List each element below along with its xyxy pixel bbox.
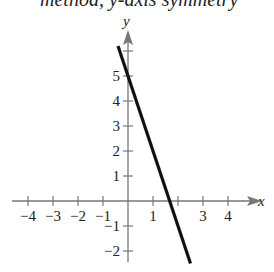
y-tick-label: 2	[113, 143, 121, 159]
x-axis-label: x	[257, 193, 265, 209]
x-ticks: −4−3−2−1134	[20, 196, 232, 224]
x-tick-label: 4	[224, 208, 232, 224]
series-line	[118, 46, 191, 264]
y-tick-label: −2	[104, 243, 120, 259]
chart-canvas: method, y-axis symmetry x y −4−3−2−1134 …	[0, 0, 274, 272]
x-tick-label: −2	[70, 208, 86, 224]
graph-figure: method, y-axis symmetry x y −4−3−2−1134 …	[0, 0, 274, 272]
y-axis-label: y	[121, 13, 130, 29]
x-tick-label: −3	[45, 208, 61, 224]
y-tick-label: 3	[113, 118, 121, 134]
y-tick-label: 4	[113, 93, 121, 109]
x-tick-label: 3	[199, 208, 207, 224]
x-tick-label: −4	[20, 208, 36, 224]
y-tick-label: 5	[113, 68, 121, 84]
header-fragment: method, y-axis symmetry	[40, 0, 238, 11]
y-tick-label: 1	[113, 168, 121, 184]
x-tick-label: 1	[149, 208, 157, 224]
y-tick-label: −1	[104, 218, 120, 234]
